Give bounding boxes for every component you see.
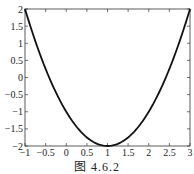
y-tick-label: 1.5	[11, 21, 24, 32]
figure-caption: 图 4.6.2	[0, 157, 194, 174]
y-tick-label: −1	[12, 106, 23, 117]
y-tick-label: 0	[18, 72, 23, 83]
y-tick-label: 2	[18, 4, 23, 15]
y-tick-label: 0.5	[11, 55, 24, 66]
parabola-line	[25, 9, 190, 146]
line-chart: −1−0.500.511.522.5321.510.50−0.5−1−1.5−2	[0, 0, 194, 174]
y-tick-label: −0.5	[5, 89, 23, 100]
y-tick-label: −1.5	[5, 123, 23, 134]
y-tick-label: 1	[18, 38, 23, 49]
y-tick-label: −2	[12, 141, 23, 152]
